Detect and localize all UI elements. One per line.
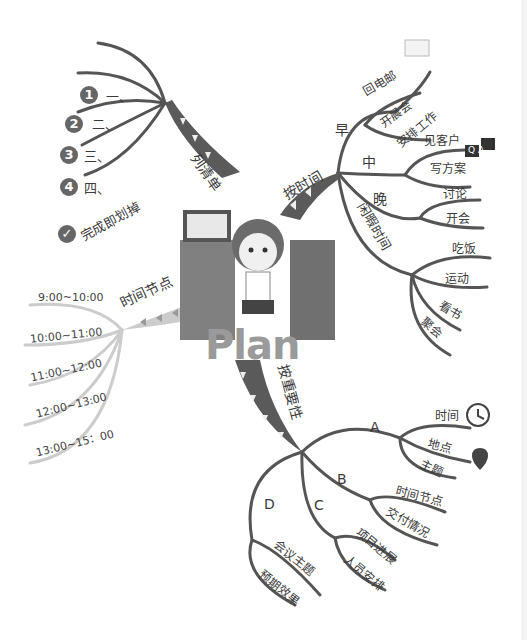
group-label-noon: 中 (362, 155, 376, 169)
item-meet-client: 见客户 (424, 135, 460, 147)
time-node-1: 9:00~10:00 (38, 292, 104, 303)
group-label-evening: 晚 (373, 192, 387, 206)
list-item-3: 三、 (84, 150, 110, 163)
item-meeting: 开会 (446, 213, 470, 225)
item-write-proposal: 写方案 (430, 163, 466, 175)
center-plan-title: Plan (205, 322, 300, 368)
number-badge-4: 4 (60, 178, 78, 196)
number-badge-2: 2 (65, 115, 83, 133)
check-icon: ✓ (58, 225, 76, 243)
mind-map-lines (0, 0, 527, 640)
group-label-a: A (370, 420, 380, 434)
group-label-b: B (337, 472, 347, 486)
qa-icon: Q A (468, 146, 484, 155)
item-discuss: 讨论 (443, 188, 467, 200)
list-item-4: 四、 (84, 182, 110, 195)
item-exercise: 运动 (445, 273, 469, 285)
page-edge (521, 0, 527, 640)
list-item-2: 二、 (92, 118, 118, 131)
group-label-d: D (264, 497, 275, 511)
number-badge-1: 1 (80, 86, 98, 104)
item-time: 时间 (435, 410, 459, 422)
group-label-morning: 早 (335, 123, 349, 137)
list-item-1: 一、 (106, 90, 132, 103)
item-eat: 吃饭 (452, 243, 476, 255)
group-label-c: C (314, 498, 324, 512)
number-badge-3: 3 (60, 146, 78, 164)
mind-map (0, 0, 527, 640)
